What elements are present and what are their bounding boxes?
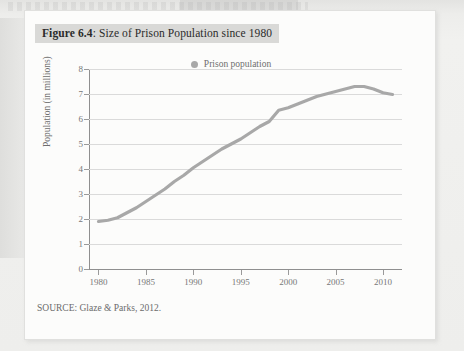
y-axis-tick-label: 7 <box>67 94 83 95</box>
legend-marker-icon <box>191 61 198 68</box>
figure-card: Figure 6.4: Size of Prison Population si… <box>24 10 436 340</box>
y-axis-tick-label: 1 <box>67 244 83 245</box>
y-axis-tick-label: 0 <box>67 269 83 270</box>
y-axis-tick-label: 2 <box>67 219 83 220</box>
figure-source-note: SOURCE: Glaze & Parks, 2012. <box>37 303 161 313</box>
figure-number: Figure 6.4 <box>42 27 93 39</box>
figure-title-container: Figure 6.4: Size of Prison Population si… <box>35 23 279 43</box>
legend-entry-label: Prison population <box>204 59 271 69</box>
y-axis-tick-label: 8 <box>67 69 83 70</box>
y-axis-tick-label: 5 <box>67 144 83 145</box>
y-axis-tick-label: 3 <box>67 194 83 195</box>
figure-caption: Figure 6.4: Size of Prison Population si… <box>35 24 279 43</box>
chart-legend: Prison population <box>25 59 437 69</box>
chart-plot-area: Population (in millions) 012345678 19801… <box>89 69 414 284</box>
y-axis-tick-label: 6 <box>67 119 83 120</box>
y-axis-tick-label: 4 <box>67 169 83 170</box>
y-axis-title: Population (in millions) <box>42 56 52 147</box>
figure-caption-text: Size of Prison Population since 1980 <box>99 27 272 39</box>
line-series-prison-population <box>89 69 414 284</box>
